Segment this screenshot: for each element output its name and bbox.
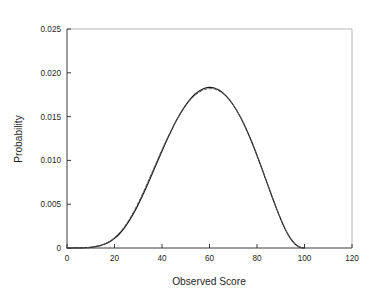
y-axis-tick-label: 0.010	[41, 156, 62, 165]
y-axis-tick-label: 0	[56, 244, 61, 253]
x-axis-tick-label: 0	[65, 254, 70, 263]
figure-canvas: 00.0050.0100.0150.0200.025 0204060801001…	[0, 0, 374, 306]
plot-background	[67, 29, 352, 248]
y-axis-tick-label: 0.015	[41, 113, 62, 122]
x-axis-tick-label: 20	[110, 254, 120, 263]
x-axis-tick-label: 60	[205, 254, 215, 263]
y-axis-title: Probability	[13, 114, 24, 162]
x-axis-tick-label: 120	[345, 254, 359, 263]
x-axis-tick-label: 40	[157, 254, 167, 263]
probability-distribution-chart: 00.0050.0100.0150.0200.025 0204060801001…	[0, 0, 374, 306]
y-axis-tick-label: 0.025	[41, 25, 62, 34]
x-axis-tick-label: 80	[252, 254, 262, 263]
y-axis-tick-label: 0.020	[41, 69, 62, 78]
y-axis-tick-label: 0.005	[41, 200, 62, 209]
x-axis-title: Observed Score	[172, 276, 246, 287]
x-axis-tick-label: 100	[298, 254, 312, 263]
y-axis-tick-group: 00.0050.0100.0150.0200.025	[41, 25, 72, 253]
